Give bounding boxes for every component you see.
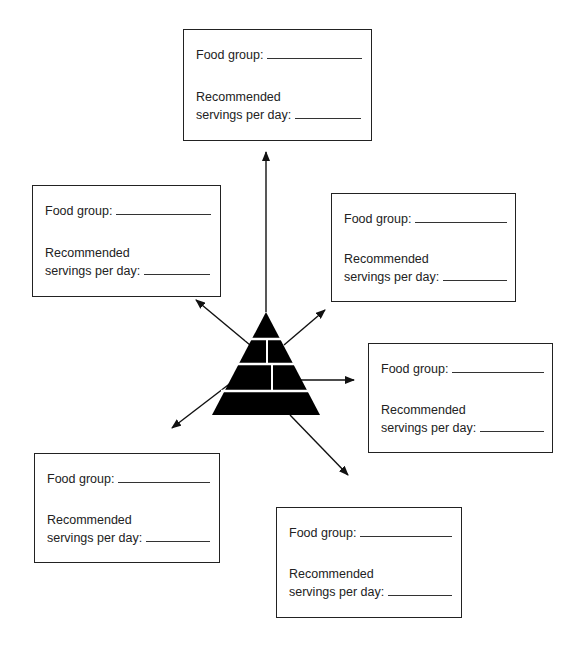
servings-blank[interactable] (443, 279, 507, 281)
food-group-blank[interactable] (452, 371, 544, 373)
box-upper-right: Food group: Recommendedservings per day: (331, 193, 516, 302)
arrow-lower-right (290, 415, 348, 475)
servings-label-line1: Recommended (196, 88, 361, 106)
servings-blank[interactable] (388, 594, 452, 596)
food-group-label: Food group: (381, 362, 448, 376)
servings-label-line1: Recommended (47, 511, 210, 529)
food-group-blank[interactable] (116, 213, 211, 215)
servings-label-line2: servings per day: (196, 108, 291, 122)
servings-label-line1: Recommended (289, 565, 452, 583)
arrow-upper-left (196, 300, 250, 345)
servings-blank[interactable] (146, 540, 210, 542)
servings-label-line1: Recommended (45, 244, 210, 262)
food-group-label: Food group: (344, 212, 411, 226)
box-upper-left: Food group: Recommendedservings per day: (32, 185, 221, 297)
food-group-blank[interactable] (267, 57, 362, 59)
diagram-canvas: Food group: Recommendedservings per day:… (0, 0, 577, 652)
box-top: Food group: Recommendedservings per day: (183, 29, 372, 141)
servings-label-line1: Recommended (381, 401, 544, 419)
servings-blank[interactable] (480, 430, 544, 432)
box-lower-left: Food group: Recommendedservings per day: (34, 453, 220, 563)
food-group-label: Food group: (196, 48, 263, 62)
arrow-upper-right (284, 310, 325, 345)
servings-label-line2: servings per day: (45, 264, 140, 278)
food-group-label: Food group: (289, 526, 356, 540)
servings-label-line2: servings per day: (47, 531, 142, 545)
food-group-label: Food group: (45, 204, 112, 218)
servings-label-line2: servings per day: (344, 270, 439, 284)
food-group-blank[interactable] (118, 481, 210, 483)
food-group-blank[interactable] (415, 221, 507, 223)
box-right: Food group: Recommendedservings per day: (368, 343, 553, 453)
servings-label-line1: Recommended (344, 250, 507, 268)
servings-label-line2: servings per day: (289, 585, 384, 599)
food-group-label: Food group: (47, 472, 114, 486)
food-group-blank[interactable] (360, 535, 452, 537)
servings-blank[interactable] (295, 117, 361, 119)
box-lower-right: Food group: Recommendedservings per day: (276, 507, 462, 618)
servings-label-line2: servings per day: (381, 421, 476, 435)
servings-blank[interactable] (144, 273, 210, 275)
